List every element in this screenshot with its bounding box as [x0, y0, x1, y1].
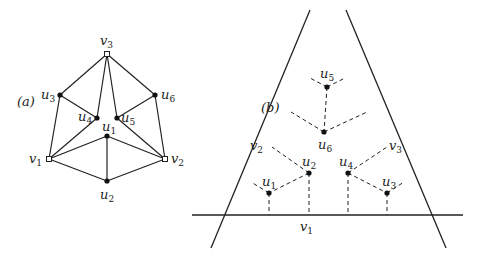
dashed-edge [291, 112, 324, 132]
label-v1: v1 [29, 151, 42, 168]
vertex-v3-open [105, 52, 110, 57]
edge-v2-u2 [107, 159, 165, 181]
edge-u1-v2 [107, 136, 165, 159]
edge-v3-u6 [107, 54, 155, 95]
label-line-v1: v1 [300, 219, 313, 236]
vertex-u1 [104, 133, 109, 138]
point-u1 [266, 190, 271, 195]
vertex-u3 [57, 92, 62, 97]
label-u2: u2 [302, 154, 316, 171]
panel-b-arrangement: u5u6u2u1u4u3v1v2v3 (b) [192, 10, 463, 248]
edge-v3-u4 [97, 54, 107, 118]
label-u6: u6 [318, 137, 332, 154]
vertex-u4 [94, 115, 99, 120]
label-u6: u6 [161, 87, 175, 104]
label-line-v2: v2 [250, 138, 263, 155]
point-u5 [324, 84, 329, 89]
label-u2: u2 [100, 187, 114, 204]
edge-u6-v2 [155, 95, 165, 159]
label-u5: u5 [320, 66, 334, 83]
panel-b-label: (b) [261, 100, 279, 115]
edge-v3-u5 [107, 54, 117, 118]
label-v2: v2 [171, 151, 184, 168]
edge-v1-u2 [49, 159, 107, 181]
point-u3 [384, 190, 389, 195]
line-v2 [211, 10, 310, 248]
dashed-edge [324, 112, 367, 132]
point-u2 [306, 170, 311, 175]
figure: v3u3u6u4u5u1v1v2u2 (a) u5u6u2u1u4u3v1v2v… [0, 0, 482, 263]
vertex-v1-open [47, 157, 52, 162]
label-u4: u4 [78, 109, 92, 126]
dashed-edge [324, 87, 327, 132]
panel-b-labels: u5u6u2u1u4u3v1v2v3 [250, 66, 402, 236]
point-u6 [321, 129, 326, 134]
label-v3: v3 [100, 33, 113, 50]
panel-a-edges [49, 54, 165, 181]
point-u4 [345, 170, 350, 175]
label-u3: u3 [382, 174, 396, 191]
panel-a-graph: v3u3u6u4u5u1v1v2u2 (a) [17, 33, 184, 204]
panel-b-points [266, 84, 389, 195]
label-u5: u5 [121, 110, 135, 127]
edge-u1-v1 [49, 136, 107, 159]
label-u3: u3 [41, 87, 55, 104]
vertex-u2 [104, 178, 109, 183]
panel-a-label: (a) [17, 94, 35, 109]
vertex-u6 [152, 92, 157, 97]
line-v3 [346, 10, 446, 248]
vertex-u5 [114, 115, 119, 120]
dashed-edge [348, 147, 387, 173]
edge-u3-v1 [49, 95, 60, 159]
edge-v3-u3 [60, 54, 107, 95]
vertex-v2-open [163, 157, 168, 162]
label-u4: u4 [339, 154, 353, 171]
label-u1: u1 [262, 174, 276, 191]
label-u1: u1 [102, 119, 116, 136]
